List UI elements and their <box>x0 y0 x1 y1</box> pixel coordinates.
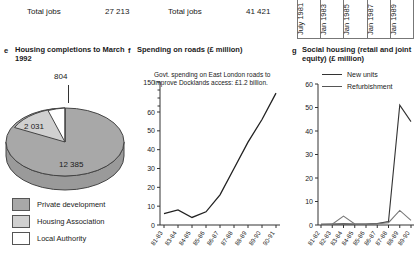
svg-text:0: 0 <box>309 222 313 229</box>
legend-line-icon <box>322 86 342 87</box>
panel-e-letter: e <box>4 46 8 55</box>
svg-text:40: 40 <box>305 128 313 135</box>
svg-text:85-86: 85-86 <box>191 229 206 246</box>
svg-text:89-90: 89-90 <box>396 229 411 246</box>
legend-swatch-icon <box>12 215 30 228</box>
svg-text:60: 60 <box>305 81 313 88</box>
svg-text:0: 0 <box>151 222 155 229</box>
date-column-4: Jan 1989 <box>391 0 413 38</box>
legend-label: Refurbishment <box>347 83 393 90</box>
housing-completions-pie-chart: 804 2 031 12 385 <box>2 72 128 192</box>
legend-swatch-icon <box>12 198 30 211</box>
legend-label: New units <box>347 71 378 78</box>
social-housing-line-chart: New units Refurbishment 010203040506081-… <box>292 70 416 258</box>
panel-g-plot: 010203040506081-8282-8383-8484-8585-8686… <box>292 70 416 258</box>
date-column-1: Jan 1983 <box>321 0 344 38</box>
svg-text:40: 40 <box>147 146 155 153</box>
svg-text:81-83: 81-83 <box>149 229 164 246</box>
svg-text:88-89: 88-89 <box>233 229 248 246</box>
legend-label: Local Authority <box>37 234 86 243</box>
top-summary-strip: Total jobs 27 213 Total jobs 41 421 July… <box>0 0 416 40</box>
panel-f-letter: f <box>128 46 131 55</box>
date-column-label: Jan 1989 <box>389 4 398 35</box>
date-header-table: July 1981 Jan 1983 Jan 1985 Jan 1987 Jan… <box>297 0 414 39</box>
panel-f-annotation: Govt. spending on East London roads to i… <box>154 71 272 87</box>
date-column-3: Jan 1987 <box>368 0 391 38</box>
total-jobs-label-1: Total jobs <box>27 7 61 16</box>
pie-svg <box>2 82 128 194</box>
legend-label: Housing Association <box>37 217 105 226</box>
panel-e-title: Housing completions to March 1992 <box>15 46 127 64</box>
svg-text:50: 50 <box>305 104 313 111</box>
panel-f-plot: 010203040506015081-8383-8484-8585-8686-8… <box>128 70 288 258</box>
svg-text:89-90: 89-90 <box>247 229 262 246</box>
legend-label: Private development <box>37 200 105 209</box>
roads-spending-line-chart: Govt. spending on East London roads to i… <box>128 70 288 258</box>
panel-g-letter: g <box>292 46 297 55</box>
legend-item-housing-association: Housing Association <box>12 213 142 230</box>
date-column-label: Jan 1983 <box>319 4 328 35</box>
pie-label-local-authority: 804 <box>54 72 67 81</box>
svg-text:20: 20 <box>305 175 313 182</box>
pie-label-housing-association: 2 031 <box>24 122 44 131</box>
legend-swatch-icon <box>12 232 30 245</box>
date-column-label: Jan 1987 <box>366 4 375 35</box>
panel-f-title: Spending on roads (£ million) <box>137 46 287 55</box>
date-column-2: Jan 1985 <box>344 0 367 38</box>
svg-text:30: 30 <box>305 151 313 158</box>
date-column-label: Jan 1985 <box>342 4 351 35</box>
pie-label-private-development: 12 385 <box>59 160 83 169</box>
svg-text:83-84: 83-84 <box>163 229 178 246</box>
svg-text:87-88: 87-88 <box>219 229 234 246</box>
panel-g-title: Social housing (retail and joint equity)… <box>302 46 416 64</box>
svg-text:20: 20 <box>147 184 155 191</box>
svg-text:86-87: 86-87 <box>205 229 220 246</box>
date-column-label: July 1981 <box>296 3 305 35</box>
svg-text:10: 10 <box>305 198 313 205</box>
svg-text:84-85: 84-85 <box>177 229 192 246</box>
svg-text:90-91: 90-91 <box>261 229 276 246</box>
svg-text:30: 30 <box>147 165 155 172</box>
panel-e-legend: Private development Housing Association … <box>12 196 142 247</box>
legend-item-private-development: Private development <box>12 196 142 213</box>
svg-text:10: 10 <box>147 203 155 210</box>
date-column-0: July 1981 <box>298 0 321 38</box>
legend-line-icon <box>322 74 342 75</box>
svg-text:50: 50 <box>147 127 155 134</box>
svg-text:60: 60 <box>147 109 155 116</box>
total-jobs-value-1: 27 213 <box>105 7 129 16</box>
total-jobs-value-2: 41 421 <box>246 7 270 16</box>
total-jobs-label-2: Total jobs <box>168 7 202 16</box>
legend-item-local-authority: Local Authority <box>12 230 142 247</box>
legend-item-new-units: New units <box>322 71 378 78</box>
legend-item-refurbishment: Refurbishment <box>322 83 393 90</box>
